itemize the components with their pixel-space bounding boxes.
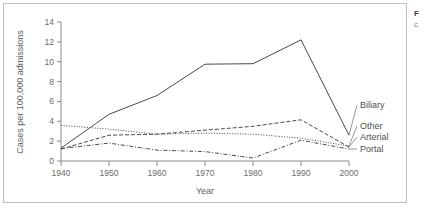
y-axis-group: 02468101214 Cases per 100,000 admissions xyxy=(15,17,61,166)
series-group xyxy=(61,40,349,158)
x-axis-ticks: 1940195019601970198019902000 xyxy=(52,161,359,178)
series-label-arterial: Arterial xyxy=(360,132,389,142)
x-tick-label: 1940 xyxy=(52,168,71,178)
y-tick-label: 14 xyxy=(45,17,55,27)
x-tick-label: 1970 xyxy=(196,168,215,178)
figure-panel: 02468101214 Cases per 100,000 admissions… xyxy=(3,3,407,203)
y-axis-title: Cases per 100,000 admissions xyxy=(15,30,25,154)
x-axis-group: 1940195019601970198019902000 Year xyxy=(52,161,359,196)
x-tick-label: 1960 xyxy=(148,168,167,178)
caption-rest: c xyxy=(414,19,444,30)
y-tick-label: 2 xyxy=(49,136,54,146)
y-axis-ticks: 02468101214 xyxy=(45,17,61,166)
line-chart: 02468101214 Cases per 100,000 admissions… xyxy=(4,4,406,202)
series-label-group: BiliaryOtherArterialPortal xyxy=(349,100,389,154)
x-axis-title: Year xyxy=(196,186,214,196)
y-tick-label: 6 xyxy=(49,96,54,106)
series-line-other xyxy=(61,125,349,146)
x-tick-label: 2000 xyxy=(340,168,359,178)
series-line-portal xyxy=(61,140,349,158)
y-tick-label: 12 xyxy=(45,37,55,47)
series-label-other: Other xyxy=(360,121,383,131)
caption-lead: F xyxy=(414,8,444,19)
x-tick-label: 1950 xyxy=(100,168,119,178)
y-tick-label: 10 xyxy=(45,57,55,67)
series-line-biliary xyxy=(61,40,349,148)
figure-caption: F c xyxy=(414,8,444,30)
x-tick-label: 1980 xyxy=(244,168,263,178)
y-tick-label: 8 xyxy=(49,77,54,87)
series-leader-biliary xyxy=(349,105,357,135)
series-line-arterial xyxy=(61,120,349,149)
series-leader-other xyxy=(349,126,357,146)
y-tick-label: 0 xyxy=(49,156,54,166)
series-label-biliary: Biliary xyxy=(360,100,385,110)
x-tick-label: 1990 xyxy=(292,168,311,178)
y-tick-label: 4 xyxy=(49,116,54,126)
series-label-portal: Portal xyxy=(360,144,384,154)
